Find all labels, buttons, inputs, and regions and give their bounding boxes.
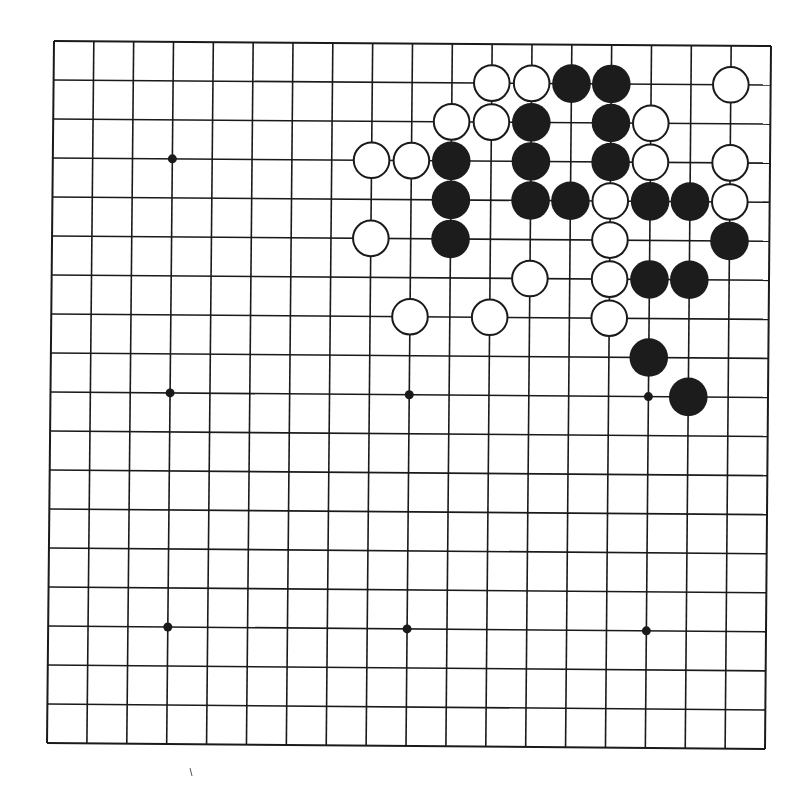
black-stone[interactable] bbox=[592, 65, 631, 104]
white-stone[interactable] bbox=[434, 104, 470, 140]
white-stone[interactable] bbox=[472, 299, 508, 335]
star-point-icon bbox=[403, 624, 412, 633]
star-point-icon bbox=[642, 626, 651, 635]
white-stone[interactable] bbox=[474, 65, 510, 101]
black-stone[interactable] bbox=[629, 338, 668, 377]
black-stone[interactable] bbox=[710, 222, 749, 261]
black-stone[interactable] bbox=[432, 181, 471, 220]
black-stone[interactable] bbox=[512, 142, 551, 181]
black-stone[interactable] bbox=[671, 182, 710, 221]
white-stone[interactable] bbox=[592, 222, 628, 258]
white-stone[interactable] bbox=[591, 300, 627, 336]
white-stone[interactable] bbox=[633, 145, 669, 181]
black-stone[interactable] bbox=[551, 181, 590, 220]
white-stone[interactable] bbox=[633, 105, 669, 141]
black-stone[interactable] bbox=[592, 104, 631, 143]
white-stone[interactable] bbox=[712, 145, 748, 181]
go-board[interactable] bbox=[0, 0, 812, 791]
white-stone[interactable] bbox=[592, 183, 628, 219]
black-stone[interactable] bbox=[669, 378, 708, 417]
black-stone[interactable] bbox=[670, 260, 709, 299]
black-stone[interactable] bbox=[432, 142, 471, 181]
black-stone[interactable] bbox=[630, 260, 669, 299]
white-stone[interactable] bbox=[353, 221, 389, 257]
black-stone[interactable] bbox=[511, 181, 550, 220]
white-stone[interactable] bbox=[713, 67, 749, 103]
black-stone[interactable] bbox=[431, 220, 470, 259]
stray-mark bbox=[190, 768, 192, 776]
star-point-icon bbox=[405, 390, 414, 399]
star-point-icon bbox=[644, 392, 653, 401]
star-point-icon bbox=[168, 154, 177, 163]
black-stone[interactable] bbox=[591, 143, 630, 182]
white-stone[interactable] bbox=[514, 66, 550, 102]
go-board-canvas[interactable] bbox=[0, 0, 812, 791]
black-stone[interactable] bbox=[631, 182, 670, 221]
white-stone[interactable] bbox=[512, 261, 548, 297]
white-stone[interactable] bbox=[712, 184, 748, 220]
white-stone[interactable] bbox=[474, 104, 510, 140]
white-stone[interactable] bbox=[354, 142, 390, 178]
black-stone[interactable] bbox=[552, 64, 591, 103]
star-point-icon bbox=[166, 388, 175, 397]
star-points bbox=[163, 154, 655, 635]
star-point-icon bbox=[163, 622, 172, 631]
white-stone[interactable] bbox=[592, 261, 628, 297]
white-stone[interactable] bbox=[392, 299, 428, 335]
white-stone[interactable] bbox=[394, 143, 430, 179]
black-stone[interactable] bbox=[512, 103, 551, 142]
